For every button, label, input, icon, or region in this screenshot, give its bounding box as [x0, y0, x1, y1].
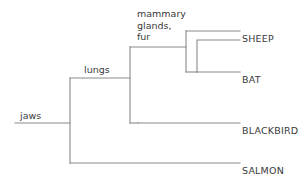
node-label-lungs-line-0: lungs [84, 64, 110, 76]
node-label-mammary-glands-fur-line-0: mammary [137, 8, 186, 20]
node-label-mammary-glands-fur-line-1: glands, [137, 20, 186, 32]
taxon-label-salmon: SALMON [242, 166, 284, 176]
cladogram-diagram: SHEEPBATBLACKBIRDSALMON mammaryglands,fu… [0, 0, 306, 178]
node-label-mammary-glands-fur-line-2: fur [137, 31, 186, 43]
node-label-mammary-glands-fur: mammaryglands,fur [137, 8, 186, 43]
taxon-label-bat: BAT [242, 75, 261, 85]
taxon-label-sheep: SHEEP [242, 34, 274, 44]
node-label-lungs: lungs [84, 64, 110, 76]
taxon-label-blackbird: BLACKBIRD [242, 126, 298, 136]
node-label-jaws: jaws [20, 110, 41, 122]
node-label-jaws-line-0: jaws [20, 110, 41, 122]
branch-inner-mammal-bar [197, 40, 240, 72]
